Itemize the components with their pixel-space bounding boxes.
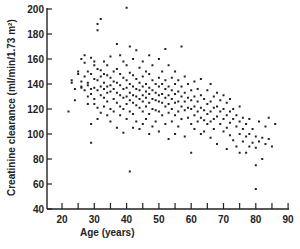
data-point	[235, 114, 237, 116]
data-point	[113, 111, 115, 113]
data-point	[226, 127, 228, 129]
y-tick-label: 40	[33, 204, 45, 215]
data-point	[132, 113, 134, 115]
data-point	[109, 91, 111, 93]
data-point	[158, 111, 160, 113]
data-point	[174, 133, 176, 135]
data-point	[200, 133, 202, 135]
data-point	[158, 94, 160, 96]
data-point	[258, 121, 260, 123]
data-point	[210, 121, 212, 123]
data-point	[126, 64, 128, 66]
x-tick-label: 20	[56, 214, 68, 225]
data-point	[155, 99, 157, 101]
data-point	[171, 121, 173, 123]
data-point	[158, 131, 160, 133]
data-point	[87, 96, 89, 98]
data-point	[97, 29, 99, 31]
data-point	[206, 103, 208, 105]
data-point	[216, 143, 218, 145]
data-point	[74, 88, 76, 90]
data-point	[161, 114, 163, 116]
data-point	[151, 108, 153, 110]
data-point	[177, 111, 179, 113]
data-point	[177, 101, 179, 103]
data-point	[245, 136, 247, 138]
data-point	[109, 56, 111, 58]
data-point	[158, 86, 160, 88]
data-point	[71, 82, 73, 84]
data-point	[148, 133, 150, 135]
y-tick-label: 140	[27, 79, 44, 90]
data-point	[106, 74, 108, 76]
data-point	[164, 79, 166, 81]
y-tick-label: 160	[27, 54, 44, 65]
data-point	[151, 79, 153, 81]
data-point	[268, 117, 270, 119]
data-point	[139, 67, 141, 69]
data-point	[197, 121, 199, 123]
y-tick-label: 180	[27, 29, 44, 40]
data-point	[168, 86, 170, 88]
x-tick-label: 50	[153, 214, 165, 225]
data-point	[206, 89, 208, 91]
data-point	[151, 98, 153, 100]
data-point	[168, 103, 170, 105]
data-point	[187, 83, 189, 85]
scatter-chart: 406080100120140160180200 203040506070809…	[0, 0, 300, 249]
data-point	[100, 94, 102, 96]
data-point	[67, 111, 69, 113]
data-point	[119, 73, 121, 75]
data-point	[113, 98, 115, 100]
data-point	[106, 114, 108, 116]
data-point	[155, 92, 157, 94]
data-point	[116, 68, 118, 70]
data-point	[193, 114, 195, 116]
data-point	[126, 79, 128, 81]
y-tick-label: 100	[27, 129, 44, 140]
data-point	[174, 71, 176, 73]
data-point	[93, 64, 95, 66]
data-point	[148, 93, 150, 95]
data-point	[229, 134, 231, 136]
data-point	[168, 64, 170, 66]
data-point	[219, 123, 221, 125]
data-point	[87, 103, 89, 105]
data-point	[119, 106, 121, 108]
data-point	[113, 81, 115, 83]
data-point	[155, 83, 157, 85]
data-point	[116, 127, 118, 129]
data-point	[190, 152, 192, 154]
data-point	[145, 106, 147, 108]
data-point	[235, 146, 237, 148]
data-point	[268, 138, 270, 140]
data-point	[203, 109, 205, 111]
data-point	[106, 86, 108, 88]
data-point	[145, 97, 147, 99]
x-tick-label: 30	[89, 214, 101, 225]
data-point	[109, 77, 111, 79]
data-point	[213, 128, 215, 130]
data-point	[148, 87, 150, 89]
data-point	[100, 18, 102, 20]
data-point	[168, 94, 170, 96]
data-point	[132, 102, 134, 104]
data-point	[164, 106, 166, 108]
data-point	[255, 164, 257, 166]
data-point	[200, 94, 202, 96]
data-point	[93, 103, 95, 105]
data-point	[187, 117, 189, 119]
data-point	[203, 131, 205, 133]
data-point	[122, 61, 124, 63]
data-point	[132, 74, 134, 76]
data-point	[132, 86, 134, 88]
data-point	[145, 91, 147, 93]
data-point	[252, 128, 254, 130]
data-point	[103, 88, 105, 90]
data-point	[113, 71, 115, 73]
data-point	[255, 136, 257, 138]
data-point	[181, 46, 183, 48]
data-point	[90, 142, 92, 144]
data-point	[171, 77, 173, 79]
data-point	[97, 89, 99, 91]
